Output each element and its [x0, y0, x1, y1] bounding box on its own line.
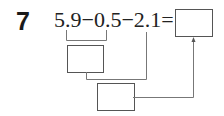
- bracket-line: [67, 30, 107, 41]
- connector-step2: [133, 40, 194, 98]
- connector-lines: [0, 0, 224, 116]
- connector-step1: [87, 32, 147, 80]
- arrow-head-icon: [192, 37, 196, 42]
